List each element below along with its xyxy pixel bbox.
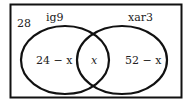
set-ig9-label: ig9 xyxy=(46,11,64,24)
xar3-only-region: 52 − x xyxy=(125,54,162,67)
ig9-only-region: 24 − x xyxy=(36,54,73,67)
set-xar3-label: xar3 xyxy=(128,11,153,24)
intersection-region: x xyxy=(91,54,98,67)
universal-count: 28 xyxy=(17,17,31,30)
venn-diagram: 28 ig9 xar3 24 − x x 52 − x xyxy=(0,0,185,112)
